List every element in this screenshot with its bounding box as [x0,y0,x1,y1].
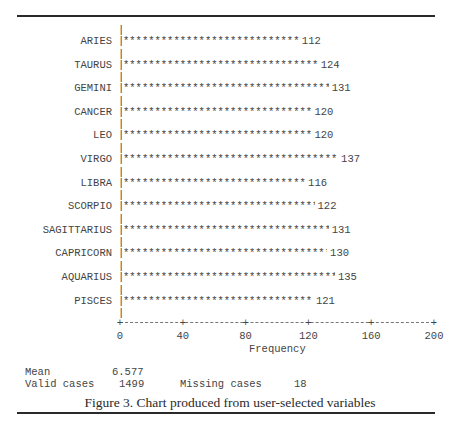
axis-tick-mark: + [304,317,312,329]
bar-value: 112 [302,35,321,47]
category-label: CANCER [0,106,112,118]
axis-tick-label: 80 [239,330,252,342]
bar-asterisks: ****************************************… [123,153,338,165]
category-label: ARIES [0,35,112,47]
bar-value: 122 [318,200,337,212]
category-label: VIRGO [0,153,112,165]
category-label: SAGITTARIUS [0,224,112,236]
bar-row: CAPRICORN|******************************… [0,247,460,261]
category-label: LEO [0,129,112,141]
bar-value: 116 [308,177,327,189]
category-label: LIBRA [0,177,112,189]
bar-value: 120 [314,129,333,141]
bar-row: LIBRA|**********************************… [0,177,460,191]
bar-asterisks: *********************************** [123,177,305,189]
axis-tick-mark: + [116,317,124,329]
bar-value: 131 [332,224,351,236]
x-axis-label: Frequency [249,343,306,355]
category-label: SCORPIO [0,200,112,212]
bar-row: SAGITTARIUS|****************************… [0,224,460,238]
bar-value: 131 [332,82,351,94]
axis-tick-mark: + [367,317,375,329]
bar-asterisks: *************************************** [123,247,327,259]
bar-asterisks: *************************************** [123,82,329,94]
bar-row: SCORPIO|********************************… [0,200,460,214]
x-axis-line: ++++++ [120,322,434,323]
bar-asterisks: ************************************ [123,129,311,141]
top-rule [17,15,435,17]
bar-row: VIRGO|**********************************… [0,153,460,167]
category-label: AQUARIUS [0,271,112,283]
bar-asterisks: ****************************************… [123,271,335,283]
figure-caption: Figure 3. Chart produced from user-selec… [0,395,460,411]
axis-tick-label: 120 [299,330,318,342]
bar-row: ARIES|**********************************… [0,35,460,49]
bar-row: CANCER|*********************************… [0,106,460,120]
axis-tick-mark: + [430,317,438,329]
bar-value: 120 [314,106,333,118]
axis-tick-label: 40 [176,330,189,342]
axis-tick-mark: + [242,317,250,329]
category-label: TAURUS [0,59,112,71]
axis-tick-label: 160 [362,330,381,342]
axis-tick-label: 200 [425,330,444,342]
bar-value: 121 [316,295,335,307]
mean-label: Mean [25,366,50,378]
category-label: PISCES [0,295,112,307]
bar-value: 124 [321,59,340,71]
bar-asterisks: *************************************** [123,224,329,236]
missing-cases-value: 18 [294,378,307,390]
bar-value: 137 [341,153,360,165]
bar-row: PISCES|*********************************… [0,295,460,309]
bar-asterisks: ************************************ [123,106,311,118]
category-label: CAPRICORN [0,247,112,259]
missing-cases-label: Missing cases [180,378,262,390]
bar-row: AQUARIUS|*******************************… [0,271,460,285]
bar-asterisks: ************************************* [123,200,315,212]
bar-asterisks: ************************************* [123,59,318,71]
axis-tick-mark: + [179,317,187,329]
axis-tick-label: 0 [117,330,123,342]
bottom-rule [17,412,435,414]
mean-value: 6.577 [112,366,144,378]
bar-row: LEO|************************************… [0,129,460,143]
bar-value: 135 [338,271,357,283]
bar-asterisks: ********************************** [123,35,299,47]
valid-cases-value: 1499 [119,378,144,390]
bar-row: GEMINI|*********************************… [0,82,460,96]
bar-row: TAURUS|*********************************… [0,59,460,73]
category-label: GEMINI [0,82,112,94]
valid-cases-label: Valid cases [25,378,94,390]
bar-value: 130 [330,247,349,259]
bar-asterisks: ************************************* [123,295,313,307]
